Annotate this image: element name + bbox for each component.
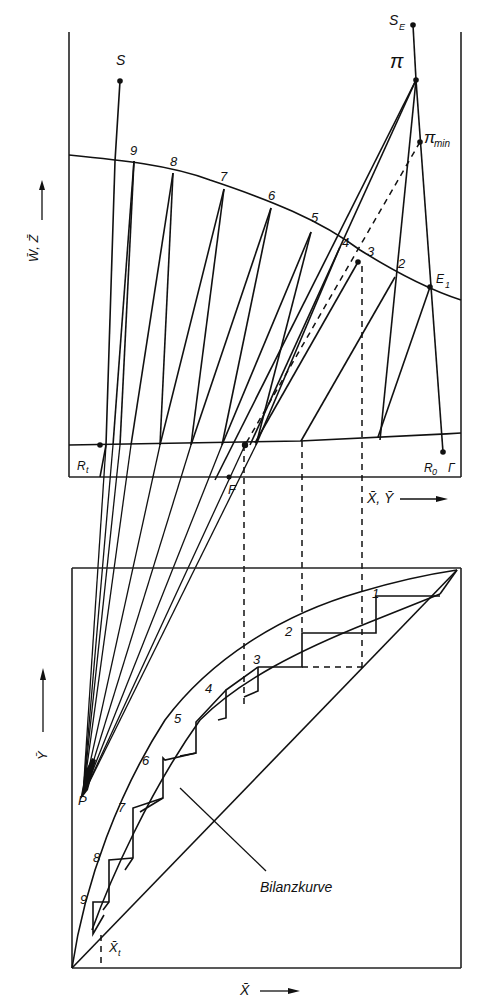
p-rays [80,445,256,800]
s-tie [106,161,115,445]
s-line [115,81,120,161]
rt-point [97,442,103,448]
label-pi-min-sub: min [434,138,451,149]
raffinate-curve [69,433,461,445]
stage-label-8: 8 [170,154,178,169]
label-xt-sub: t [118,948,121,958]
lower-stage-label-9: 9 [80,892,87,907]
label-bilanzkurve: Bilanzkurve [260,879,333,895]
se-point [410,22,416,28]
lower-stage-label-4: 4 [205,681,212,696]
label-f: F [228,482,237,497]
lower-stage-label-6: 6 [142,753,150,768]
lower-stage-label-8: 8 [93,850,101,865]
lower-stage-label-1: 1 [372,586,379,601]
lower-y-axis-label: Ȳ [35,750,50,760]
stage-label-7: 7 [220,169,228,184]
upper-y-axis-label: W̄, Z̄ [26,234,41,262]
label-se: S [389,12,399,28]
stage-label-9: 9 [130,143,137,158]
diagonal-line [72,570,457,968]
stage-label-3: 3 [367,244,375,259]
pi-ray-1 [215,80,416,480]
upper-panel: S S E π π min E 1 R t R 0 Γ F 9 8 7 6 5 … [26,12,461,705]
label-rt-sub: t [86,465,89,475]
label-s: S [116,52,126,68]
stage-label-2: 2 [397,256,406,271]
label-se-sub: E [399,22,406,32]
lower-stage-label-2: 2 [284,624,293,639]
tie-3 [255,262,358,443]
point-3 [355,259,361,265]
lower-panel: 1 2 3 4 5 6 7 8 9 P X̄ t Bilanzkurve Ȳ X… [35,568,461,998]
label-pi: π [390,50,404,72]
stage-label-5: 5 [311,210,319,225]
stage-label-4: 4 [342,235,349,250]
upper-x-axis-label: X̄, Ȳ [366,490,395,506]
label-rt: R [77,459,86,473]
bilanzkurve-leader [180,788,266,871]
label-e1: E [436,272,445,286]
r0-point [440,449,446,455]
diagram-canvas: S S E π π min E 1 R t R 0 Γ F 9 8 7 6 5 … [0,0,489,998]
lower-stage-label-5: 5 [174,711,182,726]
s-point [117,78,123,84]
stage-label-6: 6 [268,188,276,203]
lower-stage-label-7: 7 [118,800,126,815]
se-line [413,25,416,80]
label-r0-sub: 0 [432,467,437,477]
label-r0-suffix: Γ [448,461,456,475]
label-p: P [78,793,87,808]
label-e1-sub: 1 [445,280,450,290]
lower-stage-label-3: 3 [253,652,261,667]
lower-x-axis-label: X̄ [239,982,250,998]
tie-e1 [378,287,430,437]
